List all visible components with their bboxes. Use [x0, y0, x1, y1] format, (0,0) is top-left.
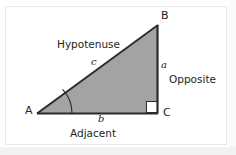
- vertex-label-a: A: [25, 105, 33, 116]
- vertex-label-c: C: [163, 107, 171, 118]
- side-label-b: b: [98, 114, 104, 124]
- vertex-label-b: B: [161, 10, 169, 21]
- side-name-opposite: Opposite: [169, 74, 216, 85]
- side-name-hypotenuse: Hypotenuse: [57, 39, 120, 50]
- figure-screenshot: B A C c a b Hypotenuse Opposite Adjacent: [0, 0, 236, 155]
- side-label-a: a: [161, 60, 167, 70]
- side-label-c: c: [91, 57, 97, 67]
- right-angle-marker: [147, 102, 158, 113]
- side-name-adjacent: Adjacent: [70, 128, 116, 139]
